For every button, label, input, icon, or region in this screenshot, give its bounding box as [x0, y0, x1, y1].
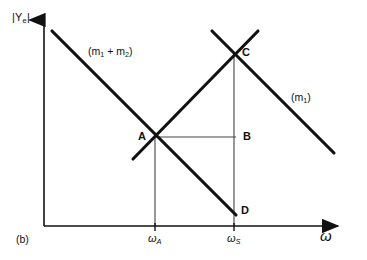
point-label-a: A	[138, 131, 146, 142]
curve-label-m1-prefix: (m	[291, 91, 303, 103]
tick-label-omega-s-symbol: ω	[227, 232, 236, 244]
tick-label-omega-a: ωA	[148, 233, 162, 246]
point-label-d: D	[241, 205, 249, 216]
curve-label-m1-plus-m2-prefix: (m	[88, 45, 100, 57]
point-label-b: B	[243, 131, 251, 142]
curve-m1	[212, 31, 334, 153]
y-axis-label-suffix: |	[27, 11, 30, 23]
tick-label-omega-s-subscript: S	[236, 237, 241, 246]
curve-label-m1-plus-m2-suffix: )	[129, 45, 133, 57]
point-label-c: C	[242, 47, 250, 58]
figure-panel-b: |Ye| ω (m1 + m2) (m1) A B C D ωA ωS (b)	[0, 0, 367, 260]
curve-m1-plus-m2	[52, 31, 236, 215]
curve-rising-branch	[133, 31, 258, 159]
tick-label-omega-s: ωS	[227, 233, 241, 246]
curve-label-m1-suffix: )	[307, 91, 311, 103]
figure-canvas	[0, 0, 367, 260]
figure-caption: (b)	[16, 234, 29, 245]
tick-label-omega-a-subscript: A	[157, 237, 162, 246]
x-axis-label: ω	[320, 228, 332, 243]
y-axis-label-prefix: |Y	[12, 11, 23, 23]
curve-label-m1-plus-m2: (m1 + m2)	[88, 46, 132, 59]
curve-label-m1-plus-m2-mid: + m	[104, 45, 125, 57]
y-axis-label: |Ye|	[12, 12, 30, 25]
curve-label-m1: (m1)	[291, 92, 311, 105]
tick-label-omega-a-symbol: ω	[148, 232, 157, 244]
